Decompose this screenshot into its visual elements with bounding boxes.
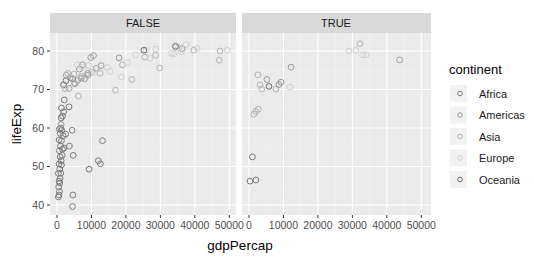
x-tick-label: 0 xyxy=(54,219,60,231)
x-tick-label: 0 xyxy=(246,219,252,231)
x-axis-true: 01000020000300004000050000 xyxy=(246,215,436,231)
x-tick-label: 40000 xyxy=(372,219,401,231)
legend-key-background xyxy=(450,85,467,102)
legend-label-oceania: Oceania xyxy=(479,174,521,186)
x-tick-label: 10000 xyxy=(269,219,298,231)
x-axis-title: gdpPercap xyxy=(207,238,272,253)
x-tick-label: 20000 xyxy=(111,219,140,231)
y-axis-title: lifeExp xyxy=(9,104,24,145)
x-axis-false: 01000020000300004000050000 xyxy=(54,215,244,231)
facet-panel-true: TRUE xyxy=(242,13,431,215)
y-tick-label: 60 xyxy=(32,122,44,134)
y-tick-label: 70 xyxy=(32,83,44,95)
x-tick-label: 50000 xyxy=(215,219,244,231)
legend-key-background xyxy=(450,150,467,167)
y-axis: 4050607080 xyxy=(32,45,50,211)
legend-key-background xyxy=(450,128,467,145)
facet-panel-false: FALSE xyxy=(50,13,236,215)
y-tick-label: 50 xyxy=(32,160,44,172)
strip-label-false: FALSE xyxy=(126,17,160,29)
legend-title: continent xyxy=(449,62,502,77)
x-tick-label: 40000 xyxy=(180,219,209,231)
x-tick-label: 50000 xyxy=(407,219,436,231)
x-tick-label: 30000 xyxy=(146,219,175,231)
legend-items: AfricaAmericasAsiaEuropeOceania xyxy=(450,85,525,188)
faceted-scatter-chart: FALSE TRUE 4050607080 010000200003000040… xyxy=(0,0,534,261)
strip-label-true: TRUE xyxy=(321,17,351,29)
legend: continent AfricaAmericasAsiaEuropeOceani… xyxy=(449,62,525,188)
x-tick-label: 10000 xyxy=(77,219,106,231)
y-tick-label: 80 xyxy=(32,45,44,57)
legend-label-asia: Asia xyxy=(479,131,501,143)
legend-key-background xyxy=(450,107,467,124)
x-tick-label: 20000 xyxy=(303,219,332,231)
legend-label-europe: Europe xyxy=(479,152,514,164)
legend-label-americas: Americas xyxy=(479,109,525,121)
legend-key-background xyxy=(450,171,467,188)
x-tick-label: 30000 xyxy=(338,219,367,231)
legend-label-africa: Africa xyxy=(479,88,508,100)
y-tick-label: 40 xyxy=(32,199,44,211)
